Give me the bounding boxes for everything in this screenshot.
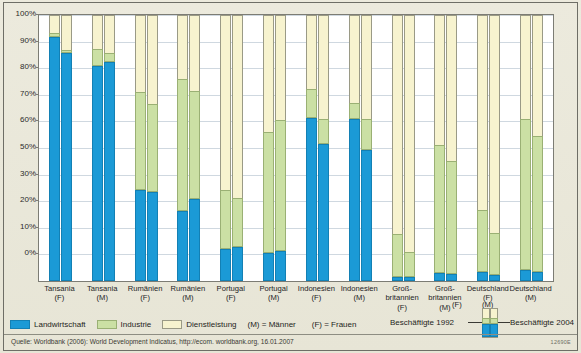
segment-industrie bbox=[532, 136, 543, 272]
bar-4-1992 bbox=[220, 15, 231, 281]
year-key-label-1992: Beschäftigte 1992 bbox=[390, 318, 454, 327]
y-axis: 100%90%80%70%60%50%30%20%10%0% bbox=[0, 14, 36, 282]
bar-6-1992 bbox=[306, 15, 317, 281]
bar-2-2004 bbox=[147, 15, 158, 281]
legend-note-frauen: (F) = Frauen bbox=[312, 320, 357, 329]
bar-1-2004 bbox=[104, 15, 115, 281]
segment-industrie bbox=[61, 50, 72, 53]
segment-landwirtschaft bbox=[477, 272, 488, 281]
bar-4-2004 bbox=[232, 15, 243, 281]
bar-9-2004 bbox=[446, 15, 457, 281]
segment-landwirtschaft bbox=[361, 150, 372, 281]
segment-industrie bbox=[392, 234, 403, 277]
segment-industrie bbox=[220, 190, 231, 249]
year-key-label-2004: Beschäftigte 2004 bbox=[510, 318, 574, 327]
chart-plot-area bbox=[38, 14, 554, 282]
bar-2-1992 bbox=[135, 15, 146, 281]
y-axis-tick-90: 90% bbox=[2, 36, 36, 45]
segment-landwirtschaft bbox=[104, 62, 115, 281]
segment-industrie bbox=[306, 89, 317, 118]
segment-industrie bbox=[135, 92, 146, 189]
y-axis-tick-50: 50% bbox=[2, 142, 36, 151]
segment-landwirtschaft bbox=[306, 118, 317, 281]
frame-border-top bbox=[3, 2, 578, 3]
bar-11-2004 bbox=[532, 15, 543, 281]
segment-landwirtschaft bbox=[177, 211, 188, 281]
y-axis-tick-10: 10% bbox=[2, 222, 36, 231]
bar-11-1992 bbox=[520, 15, 531, 281]
bar-10-1992 bbox=[477, 15, 488, 281]
gridline-30 bbox=[39, 201, 553, 202]
legend-swatch-landwirtschaft bbox=[10, 320, 30, 329]
gridline-100 bbox=[39, 15, 553, 16]
year-key-tag-f: (F) bbox=[452, 300, 462, 309]
segment-landwirtschaft bbox=[446, 274, 457, 281]
gridline-10 bbox=[39, 254, 553, 255]
bar-8-2004 bbox=[404, 15, 415, 281]
segment-landwirtschaft bbox=[318, 144, 329, 281]
bar-7-1992 bbox=[349, 15, 360, 281]
year-key-mini-ind-2004 bbox=[490, 318, 498, 324]
segment-industrie bbox=[446, 161, 457, 274]
bar-1-1992 bbox=[92, 15, 103, 281]
segment-industrie bbox=[477, 210, 488, 273]
y-axis-tick-70: 70% bbox=[2, 89, 36, 98]
segment-industrie bbox=[349, 103, 360, 119]
y-axis-tick-0: 0% bbox=[2, 248, 36, 257]
y-axis-tick-100: 100% bbox=[2, 9, 36, 18]
source-text: Quelle: Worldbank (2006): World Developm… bbox=[11, 338, 294, 345]
legend-item-landwirtschaft: Landwirtschaft bbox=[10, 320, 86, 329]
segment-landwirtschaft bbox=[220, 249, 231, 281]
gridline-20 bbox=[39, 228, 553, 229]
legend-item-industrie: Industrie bbox=[97, 320, 152, 329]
segment-industrie bbox=[104, 53, 115, 62]
year-key-mini-ind-1992 bbox=[482, 318, 490, 324]
legend-swatch-dienstleistung bbox=[162, 320, 182, 329]
segment-industrie bbox=[489, 233, 500, 274]
bar-0-2004 bbox=[61, 15, 72, 281]
segment-landwirtschaft bbox=[263, 253, 274, 281]
x-axis-label-line: (M) bbox=[503, 293, 558, 302]
gridline-40 bbox=[39, 175, 553, 176]
segment-landwirtschaft bbox=[434, 273, 445, 281]
segment-landwirtschaft bbox=[147, 192, 158, 281]
segment-industrie bbox=[232, 198, 243, 247]
segment-industrie bbox=[275, 120, 286, 250]
segment-landwirtschaft bbox=[520, 270, 531, 281]
segment-landwirtschaft bbox=[392, 277, 403, 281]
segment-landwirtschaft bbox=[275, 251, 286, 281]
segment-industrie bbox=[318, 119, 329, 144]
legend-item-dienstleistung: Dienstleistung bbox=[162, 320, 236, 329]
source-bar: Quelle: Worldbank (2006): World Developm… bbox=[4, 334, 577, 351]
y-axis-tick-20: 20% bbox=[2, 195, 36, 204]
bar-0-1992 bbox=[49, 15, 60, 281]
y-axis-tick-60: 60% bbox=[2, 115, 36, 124]
poster-page: 100%90%80%70%60%50%30%20%10%0% Tansania(… bbox=[0, 0, 581, 353]
legend-label-industrie: Industrie bbox=[121, 320, 152, 329]
x-axis-label-line: Deutschland bbox=[503, 284, 558, 293]
segment-industrie bbox=[49, 33, 60, 37]
x-axis-label-11: Deutschland(M) bbox=[503, 284, 558, 303]
segment-industrie bbox=[361, 119, 372, 150]
frame-border-right bbox=[577, 2, 578, 351]
segment-industrie bbox=[404, 252, 415, 277]
segment-landwirtschaft bbox=[232, 247, 243, 281]
segment-landwirtschaft bbox=[49, 37, 60, 281]
bar-3-1992 bbox=[177, 15, 188, 281]
segment-landwirtschaft bbox=[135, 190, 146, 281]
segment-industrie bbox=[434, 145, 445, 273]
bar-3-2004 bbox=[189, 15, 200, 281]
bar-7-2004 bbox=[361, 15, 372, 281]
segment-industrie bbox=[263, 132, 274, 253]
publication-code: 12690E bbox=[551, 339, 571, 345]
gridline-90 bbox=[39, 42, 553, 43]
legend-note-maenner: (M) = Männer bbox=[248, 320, 296, 329]
gridline-50 bbox=[39, 148, 553, 149]
segment-landwirtschaft bbox=[404, 277, 415, 281]
legend-label-dienstleistung: Dienstleistung bbox=[186, 320, 236, 329]
segment-landwirtschaft bbox=[489, 275, 500, 281]
y-axis-tick-80: 80% bbox=[2, 62, 36, 71]
gridline-0 bbox=[39, 281, 553, 282]
bar-8-1992 bbox=[392, 15, 403, 281]
segment-landwirtschaft bbox=[189, 199, 200, 281]
